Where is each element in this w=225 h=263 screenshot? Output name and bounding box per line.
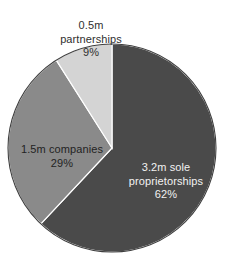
pie-chart: 0.5m partnerships 9% 1.5m companies 29% … <box>0 0 225 263</box>
pie-label-partnerships-text: 0.5m partnerships <box>60 19 122 44</box>
pie-label-sole-proprietorships: 3.2m sole proprietorships 62% <box>114 148 218 215</box>
pie-label-partnerships: 0.5m partnerships 9% <box>36 6 146 73</box>
pie-label-companies-text: 1.5m companies <box>21 143 103 155</box>
pie-label-partnerships-percent: 9% <box>36 46 146 59</box>
pie-label-companies-percent: 29% <box>4 157 120 170</box>
pie-label-companies: 1.5m companies 29% <box>4 130 120 184</box>
pie-label-sole-proprietorships-percent: 62% <box>114 188 218 201</box>
pie-label-sole-proprietorships-text: 3.2m sole proprietorships <box>129 161 203 186</box>
